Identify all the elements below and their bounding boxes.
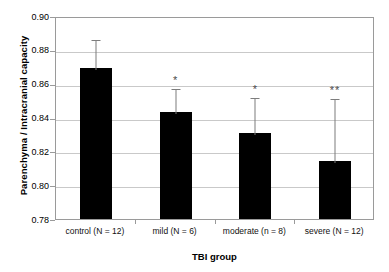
error-bar-cap xyxy=(331,99,340,100)
bar xyxy=(160,112,192,219)
y-axis-tick-label: 0.88 xyxy=(9,46,49,55)
bar-group: * xyxy=(216,18,296,219)
error-bar-line xyxy=(335,99,336,163)
y-axis-tick-label: 0.82 xyxy=(9,148,49,157)
bar-group: ** xyxy=(295,18,375,219)
significance-marker: * xyxy=(253,85,258,93)
x-axis-tick-label: control (N = 12) xyxy=(55,226,135,236)
y-axis-tick-label: 0.78 xyxy=(9,216,49,225)
x-axis-tick-mark xyxy=(135,220,136,224)
y-axis-tick-label: 0.80 xyxy=(9,182,49,191)
bar-chart-figure: Parenchyma / Intracranial capacity TBI g… xyxy=(0,0,389,272)
x-axis-title: TBI group xyxy=(55,251,374,262)
error-bar-line xyxy=(95,40,96,70)
error-bar-cap xyxy=(251,98,260,99)
error-bar-line xyxy=(175,89,176,114)
error-bar-cap xyxy=(91,40,100,41)
bar xyxy=(80,68,112,219)
y-axis-tick-label: 0.86 xyxy=(9,80,49,89)
x-axis-tick-label: mild (N = 6) xyxy=(135,226,215,236)
x-axis-tick-mark xyxy=(294,220,295,224)
error-bar-cap xyxy=(171,89,180,90)
significance-marker: ** xyxy=(330,86,341,94)
bar xyxy=(319,161,351,219)
y-axis-tick-label: 0.84 xyxy=(9,114,49,123)
y-axis-tick-mark xyxy=(50,220,55,221)
x-axis-tick-mark xyxy=(215,220,216,224)
plot-area: **** xyxy=(55,17,374,220)
bar xyxy=(239,133,271,219)
x-axis-tick-label: moderate (n = 8) xyxy=(215,226,295,236)
significance-marker: * xyxy=(173,76,178,84)
x-axis-tick-label: severe (N = 12) xyxy=(294,226,374,236)
bar-group xyxy=(56,18,136,219)
bar-group: * xyxy=(136,18,216,219)
y-axis-tick-label: 0.90 xyxy=(9,13,49,22)
error-bar-line xyxy=(255,98,256,135)
